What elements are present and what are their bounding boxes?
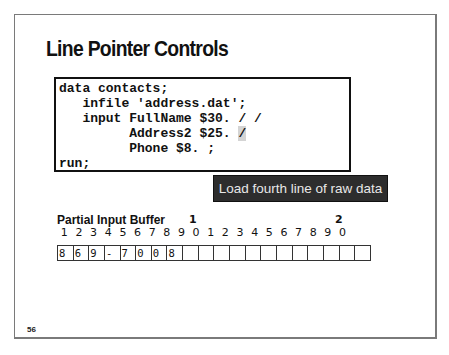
buffer-cell: 8 (58, 245, 74, 261)
slide-title: Line Pointer Controls (46, 36, 228, 62)
code-line-2: infile 'address.dat'; (59, 96, 246, 111)
ruler-digit: 2 (72, 226, 87, 240)
input-buffer-cells: 8 6 9 - 7 0 0 8 (57, 245, 371, 261)
buffer-cell: 0 (136, 245, 152, 261)
buffer-cell (261, 245, 277, 261)
ruler-digit: 2 (218, 226, 233, 240)
ruler-digit: 8 (159, 226, 174, 240)
ruler-digit: 7 (291, 226, 306, 240)
buffer-cell (214, 245, 230, 261)
ruler-digit: 1 (57, 226, 72, 240)
ruler-digit: 0 (189, 226, 204, 240)
ruler-digit: 3 (233, 226, 248, 240)
ruler-digit: 6 (277, 226, 292, 240)
buffer-cell (308, 245, 324, 261)
buffer-cell: 9 (89, 245, 105, 261)
buffer-label: Partial Input Buffer (57, 213, 165, 227)
buffer-cell: 8 (167, 245, 183, 261)
ruler-digit: 3 (86, 226, 101, 240)
code-block: data contacts; infile 'address.dat'; inp… (54, 77, 351, 172)
callout-tooltip: Load fourth line of raw data (213, 175, 388, 202)
buffer-cell (324, 245, 340, 261)
buffer-cell (230, 245, 246, 261)
tens-marker-20: 2 (335, 213, 343, 226)
ruler-digit: 5 (116, 226, 131, 240)
ruler-digit: 9 (321, 226, 336, 240)
code-line-3: input FullName $30. / / (59, 111, 262, 126)
ruler-digit: 7 (145, 226, 160, 240)
tens-marker-10: 1 (189, 213, 197, 226)
buffer-cell (293, 245, 309, 261)
highlighted-line-pointer: / (238, 126, 246, 141)
ruler-digit: 5 (262, 226, 277, 240)
ruler-digit: 1 (203, 226, 218, 240)
buffer-cell (277, 245, 293, 261)
code-line-6: run; (59, 156, 90, 171)
code-line-4: Address2 $25. (59, 126, 238, 141)
buffer-cell: - (105, 245, 121, 261)
buffer-cell (199, 245, 215, 261)
column-ruler: 1 2 3 4 5 6 7 8 9 0 1 2 3 4 5 6 7 8 9 0 (57, 226, 350, 240)
ruler-digit: 6 (130, 226, 145, 240)
buffer-cell: 0 (152, 245, 168, 261)
ruler-digit: 8 (306, 226, 321, 240)
code-line-1: data contacts; (59, 81, 168, 96)
ruler-digit: 4 (247, 226, 262, 240)
page-number: 56 (27, 325, 36, 334)
ruler-digit: 4 (101, 226, 116, 240)
buffer-cell (355, 245, 371, 261)
buffer-cell (183, 245, 199, 261)
ruler-digit: 9 (174, 226, 189, 240)
code-line-5: Phone $8. ; (59, 141, 215, 156)
buffer-cell: 7 (121, 245, 137, 261)
buffer-cell (246, 245, 262, 261)
buffer-cell (340, 245, 356, 261)
ruler-digit: 0 (335, 226, 350, 240)
buffer-cell: 6 (74, 245, 90, 261)
